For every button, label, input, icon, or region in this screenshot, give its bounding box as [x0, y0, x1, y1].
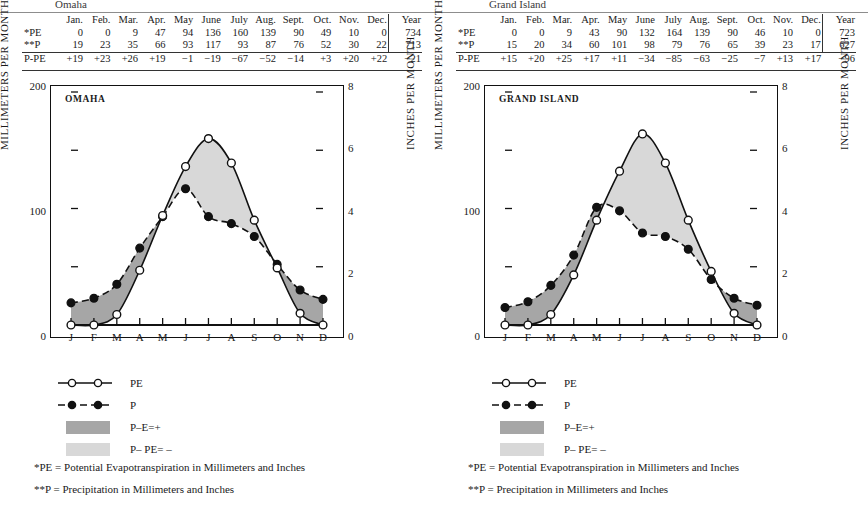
row-label-pe: *PE [456, 27, 491, 40]
cell-ppe-july: −67 [222, 52, 249, 65]
col-july: July [656, 14, 683, 27]
col-year: Year [822, 14, 856, 27]
y-axis-label-right: INCHES PER MONTH [838, 36, 850, 150]
col-oct: Oct. [739, 14, 766, 27]
cell-ppe-dec: +17 [794, 52, 822, 65]
cell-ppe-oct: −7 [739, 52, 766, 65]
cell-p-may: 93 [167, 39, 195, 52]
cell-ppe-june: −34 [628, 52, 656, 65]
col-jan: Jan. [57, 14, 84, 27]
cell-ppe-aug: −52 [249, 52, 277, 65]
cell-pe-sept: 90 [277, 27, 305, 40]
legend-row-surplus: P–E=+ [490, 416, 860, 438]
col-apr: Apr. [573, 14, 600, 27]
cell-ppe-nov: +20 [332, 52, 360, 65]
fill-layer [71, 139, 323, 326]
cell-ppe-nov: +13 [766, 52, 794, 65]
table-row-p: **P 15 20 34 60 101 98 79 76 65 39 23 17… [456, 39, 856, 52]
table-row-ppe: P-PE +15 +20 +25 +17 +11 −34 −85 −63 −25… [456, 52, 856, 65]
surplus-swatch-icon [490, 421, 550, 434]
cell-p-apr: 60 [573, 39, 600, 52]
col-may: May [167, 14, 195, 27]
cell-ppe-apr: +19 [139, 52, 166, 65]
cell-p-aug: 87 [249, 39, 277, 52]
footnote-pe: *PE = Potential Evapotranspiration in Mi… [468, 458, 858, 477]
table-bottom-rule [22, 70, 422, 71]
panel-grand-island: Grand Island Jan. Feb. Mar. Apr. May Jun… [434, 0, 868, 505]
pe-line-key-icon [56, 376, 116, 390]
y-axis-label-left: MILLIMETERS PER MONTH [0, 0, 10, 150]
cell-pe-aug: 139 [249, 27, 277, 40]
table-row-pe: *PE 0 0 9 43 90 132 164 139 90 46 10 0 7… [456, 27, 856, 40]
cell-p-jan: 19 [57, 39, 84, 52]
xtick-10: N [290, 331, 310, 343]
cell-pe-aug: 139 [683, 27, 711, 40]
cell-ppe-mar: +25 [545, 52, 573, 65]
cell-pe-sept: 90 [711, 27, 739, 40]
top-divider [434, 12, 868, 13]
cell-p-nov: 30 [332, 39, 360, 52]
cell-pe-apr: 47 [139, 27, 166, 40]
row-label-pe: *PE [22, 27, 57, 40]
col-june: June [194, 14, 222, 27]
cell-pe-july: 160 [222, 27, 249, 40]
ytick-left-0: 0 [475, 330, 481, 342]
cell-p-feb: 20 [518, 39, 545, 52]
col-feb: Feb. [84, 14, 111, 27]
ytick-right-6: 6 [348, 142, 354, 154]
cell-pe-jan: 0 [491, 27, 518, 40]
col-july: July [222, 14, 249, 27]
col-nov: Nov. [766, 14, 794, 27]
cell-p-dec: 17 [794, 39, 822, 52]
ytick-right-4: 4 [782, 205, 788, 217]
xtick-4: M [587, 331, 607, 343]
cell-pe-apr: 43 [573, 27, 600, 40]
legend-label-surplus: P–E=+ [116, 421, 161, 433]
cell-pe-feb: 0 [84, 27, 111, 40]
xtick-0: J [61, 331, 81, 343]
ytick-right-2: 2 [782, 267, 788, 279]
footnote-p: **P = Precipitation in Millimeters and I… [34, 480, 424, 499]
cell-ppe-feb: +20 [518, 52, 545, 65]
cell-pe-mar: 9 [111, 27, 139, 40]
cell-p-feb: 23 [84, 39, 111, 52]
deficit-swatch-icon [56, 443, 116, 456]
ytick-right-6: 6 [782, 142, 788, 154]
legend-label-surplus: P–E=+ [550, 421, 595, 433]
cell-p-sept: 65 [711, 39, 739, 52]
footnote-pe: *PE = Potential Evapotranspiration in Mi… [34, 458, 424, 477]
ytick-right-8: 8 [782, 80, 788, 92]
xtick-4: M [153, 331, 173, 343]
ytick-left-200: 200 [464, 80, 481, 92]
pe-line-key-icon [490, 376, 550, 390]
legend-label-pe: PE [116, 377, 143, 389]
cell-ppe-feb: +23 [84, 52, 111, 65]
cell-p-may: 101 [601, 39, 629, 52]
ytick-left-0: 0 [41, 330, 47, 342]
cell-p-apr: 66 [139, 39, 166, 52]
col-aug: Aug. [683, 14, 711, 27]
cell-p-nov: 23 [766, 39, 794, 52]
xtick-11: D [747, 331, 767, 343]
ytick-right-0: 0 [782, 330, 788, 342]
table-bottom-rule [456, 70, 856, 71]
row-label-ppe: P-PE [22, 52, 57, 65]
ytick-right-4: 4 [348, 205, 354, 217]
xtick-9: O [267, 331, 287, 343]
col-jan: Jan. [491, 14, 518, 27]
legend-row-p: P [490, 394, 860, 416]
col-year: Year [388, 14, 422, 27]
col-mar: Mar. [111, 14, 139, 27]
col-oct: Oct. [305, 14, 332, 27]
xtick-7: A [655, 331, 675, 343]
xtick-8: S [244, 331, 264, 343]
xtick-6: J [198, 331, 218, 343]
cell-p-sept: 76 [277, 39, 305, 52]
cell-ppe-jan: +15 [491, 52, 518, 65]
cell-pe-nov: 10 [332, 27, 360, 40]
cell-pe-july: 164 [656, 27, 683, 40]
legend-row-p: P [56, 394, 426, 416]
top-divider [0, 12, 434, 13]
cell-pe-may: 90 [601, 27, 629, 40]
chart-legend: PE P P–E=+ P– PE= – [56, 372, 426, 460]
